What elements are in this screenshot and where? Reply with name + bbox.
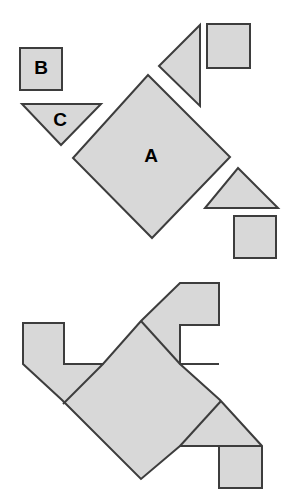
scattered-piece-lower-right-square[interactable] bbox=[234, 216, 276, 258]
puzzle-page: A B C bbox=[0, 0, 297, 500]
piece-label-a: A bbox=[144, 145, 158, 166]
puzzle-canvas: A B C bbox=[0, 0, 297, 500]
assembled-figure-outline[interactable] bbox=[23, 283, 262, 488]
piece-label-b: B bbox=[34, 57, 48, 78]
scattered-piece-up-pointing-triangle[interactable] bbox=[205, 168, 278, 208]
piece-label-c: C bbox=[53, 109, 67, 130]
scattered-piece-upper-right-square[interactable] bbox=[207, 24, 250, 68]
assembled-figure-group bbox=[23, 283, 262, 488]
scattered-pieces-group bbox=[20, 24, 278, 258]
